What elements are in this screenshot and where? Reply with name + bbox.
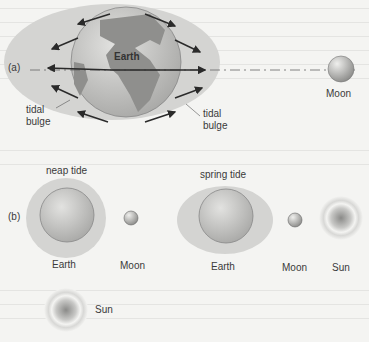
neap-earth-label: Earth [52,259,76,270]
earth-label-a: Earth [114,51,140,62]
spring-earth [199,189,253,243]
neap-moon [124,211,138,225]
neap-sun [44,288,88,332]
spring-sun [319,196,363,240]
spring-earth-label: Earth [211,261,235,272]
neap-sun-label: Sun [95,304,113,315]
tidal-bulge-left-2: bulge [26,116,50,127]
moon-label-a: Moon [326,88,351,99]
neap-moon-label: Moon [120,260,145,271]
tidal-bulge-right-2: bulge [203,120,227,131]
panel-b-neap [26,178,138,332]
panel-a [4,4,355,122]
spring-moon-label: Moon [282,262,307,273]
leader-right [186,104,200,116]
spring-tide-title: spring tide [200,169,246,180]
panel-a-label: (a) [8,62,20,73]
moon-a [328,56,354,82]
neap-earth [40,188,94,242]
spring-sun-label: Sun [332,262,350,273]
spring-moon [288,213,302,227]
panel-b-spring [177,186,363,254]
neap-tide-title: neap tide [46,165,87,176]
tidal-bulge-right-1: tidal [203,108,221,119]
tidal-bulge-left-1: tidal [26,104,44,115]
panel-b-label: (b) [8,211,20,222]
